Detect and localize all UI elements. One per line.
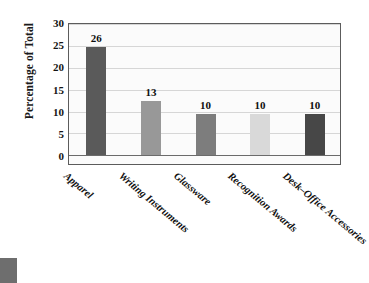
bar-apparel[interactable]: 26 (86, 47, 106, 155)
bar-writing-instruments[interactable]: 13 (141, 101, 161, 155)
bar-desk-office-accessories[interactable]: 10 (305, 114, 325, 156)
x-tick-label-apparel: Apparel (62, 170, 95, 201)
bar-glassware[interactable]: 10 (196, 114, 216, 156)
bar-value-label: 10 (200, 99, 211, 111)
corner-mark (0, 258, 17, 283)
y-tick-label: 30 (38, 17, 64, 29)
y-tick-label: 25 (38, 39, 64, 51)
y-tick-label: 5 (38, 128, 64, 140)
bar-series: 26 13 10 10 10 (69, 24, 340, 164)
y-tick-label: 10 (38, 106, 64, 118)
bar-value-label: 26 (91, 32, 102, 44)
bar-value-label: 10 (309, 99, 320, 111)
x-tick-label-glassware: Glassware (171, 170, 212, 207)
y-axis-tick-labels: 30 25 20 15 10 5 0 (38, 23, 64, 165)
x-tick-label-desk-office-accessories: Desk–Office Accessories (281, 170, 369, 246)
x-axis-tick-labels: Apparel Writing Instruments Glassware Re… (68, 166, 341, 278)
y-axis-title: Percentage of Total (23, 0, 35, 146)
bar-value-label: 13 (145, 86, 156, 98)
plot-area: 26 13 10 10 10 (68, 23, 341, 165)
bar-value-label: 10 (255, 99, 266, 111)
y-tick-label: 15 (38, 84, 64, 96)
y-tick-label: 20 (38, 61, 64, 73)
y-tick-label: 0 (38, 150, 64, 162)
bar-recognition-awards[interactable]: 10 (250, 114, 270, 156)
